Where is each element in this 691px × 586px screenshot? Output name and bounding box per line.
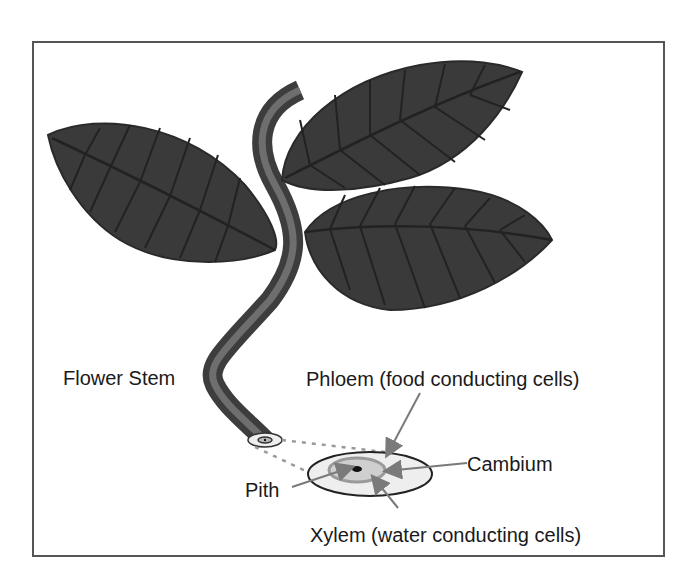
stem-end-section bbox=[248, 433, 282, 447]
leaf-lower-right bbox=[305, 186, 552, 310]
phloem-arrow bbox=[387, 393, 420, 455]
plant-illustration bbox=[0, 0, 691, 586]
label-cambium: Cambium bbox=[467, 454, 553, 474]
leaf-left bbox=[48, 123, 276, 262]
label-xylem: Xylem (water conducting cells) bbox=[310, 525, 581, 545]
stem bbox=[212, 90, 300, 440]
label-flower-stem: Flower Stem bbox=[63, 368, 175, 388]
label-phloem: Phloem (food conducting cells) bbox=[306, 369, 579, 389]
enlarged-cross-section bbox=[308, 452, 432, 496]
leaf-upper-right bbox=[282, 61, 522, 190]
label-pith: Pith bbox=[245, 480, 279, 500]
